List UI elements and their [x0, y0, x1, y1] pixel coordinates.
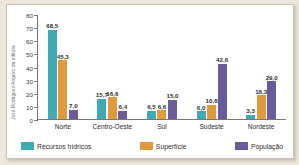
bar: 6,6: [157, 110, 166, 119]
bar-value-label: 45,3: [57, 53, 69, 60]
y-axis-tick-label: 30: [11, 77, 33, 84]
bar: 15,0: [168, 100, 177, 120]
bar-value-label: 42,6: [216, 56, 228, 63]
bar-group: 6,010,842,6: [187, 15, 237, 119]
bar-value-label: 6,0: [197, 104, 206, 111]
bar-groups: 68,545,37,015,716,66,46,56,615,06,010,84…: [38, 15, 286, 119]
bar-value-label: 16,6: [106, 90, 118, 97]
bar-fill: [197, 111, 206, 119]
chart-panel: José Rodrigues/Arquivo da editora 807060…: [6, 4, 294, 159]
y-axis-tick-label: 40: [11, 64, 33, 71]
y-axis-tick-mark: [34, 120, 38, 121]
y-axis-tick-label: 0: [11, 117, 33, 124]
bar-group: 3,318,329,0: [236, 15, 286, 119]
bar: 18,3: [257, 95, 266, 119]
bar: 68,5: [48, 30, 57, 119]
bar: 45,3: [58, 60, 67, 119]
y-axis-tick-label: 70: [11, 25, 33, 32]
legend-swatch-populacao: [235, 142, 248, 150]
legend-label-recursos-hidricos: Recursos hídricos: [37, 143, 91, 150]
plot-area: 80706050403020100 68,545,37,015,716,66,4…: [37, 15, 286, 120]
legend-swatch-recursos-hidricos: [21, 142, 34, 150]
bar-fill: [267, 81, 276, 119]
bar: 6,4: [118, 111, 127, 119]
bar-group: 6,56,615,0: [137, 15, 187, 119]
bar: 7,0: [69, 110, 78, 119]
x-axis-category-label: Sudeste: [187, 123, 237, 134]
bar-fill: [147, 111, 156, 119]
legend-swatch-superficie: [140, 142, 153, 150]
x-axis-line: [37, 119, 286, 120]
bar-fill: [246, 115, 255, 119]
bar-fill: [97, 99, 106, 119]
bar-value-label: 18,3: [255, 88, 267, 95]
bar-fill: [58, 60, 67, 119]
bar-fill: [207, 105, 216, 119]
legend-label-superficie: Superfície: [156, 143, 187, 150]
x-axis-category-label: Centro-Oeste: [88, 123, 138, 134]
bar: 16,6: [108, 97, 117, 119]
bar-fill: [48, 30, 57, 119]
bar-group: 68,545,37,0: [38, 15, 88, 119]
bar-value-label: 10,8: [206, 97, 218, 104]
x-axis-category-label: Nordeste: [236, 123, 286, 134]
bar-group: 15,716,66,4: [88, 15, 138, 119]
bar-fill: [108, 97, 117, 119]
y-axis-tick-label: 50: [11, 51, 33, 58]
bar: 6,0: [197, 111, 206, 119]
legend-item-recursos-hidricos: Recursos hídricos: [21, 142, 91, 150]
bar-value-label: 29,0: [266, 74, 278, 81]
bar-fill: [69, 110, 78, 119]
y-axis-tick-label: 60: [11, 38, 33, 45]
chart-legend: Recursos hídricos Superfície População: [21, 138, 283, 154]
bar-value-label: 15,0: [166, 92, 178, 99]
bar-value-label: 7,0: [69, 102, 78, 109]
bar-fill: [168, 100, 177, 120]
x-axis-category-label: Sul: [137, 123, 187, 134]
legend-item-superficie: Superfície: [140, 142, 187, 150]
bar-fill: [118, 111, 127, 119]
x-axis-category-label: Norte: [38, 123, 88, 134]
chart-screenshot: José Rodrigues/Arquivo da editora 807060…: [0, 0, 299, 165]
legend-label-populacao: População: [251, 143, 283, 150]
bar-value-label: 3,3: [246, 107, 255, 114]
bar-value-label: 6,6: [158, 103, 167, 110]
bar: 42,6: [218, 64, 227, 119]
bar-value-label: 6,5: [147, 103, 156, 110]
bar: 29,0: [267, 81, 276, 119]
legend-item-populacao: População: [235, 142, 283, 150]
y-axis-tick-label: 80: [11, 12, 33, 19]
bar-fill: [257, 95, 266, 119]
bar-value-label: 6,4: [119, 103, 128, 110]
x-axis-category-labels: NorteCentro-OesteSulSudesteNordeste: [38, 123, 286, 134]
bar: 15,7: [97, 99, 106, 119]
bar: 3,3: [246, 115, 255, 119]
y-axis-tick-label: 10: [11, 103, 33, 110]
bar-fill: [218, 64, 227, 119]
bar: 6,5: [147, 111, 156, 119]
bar-fill: [157, 110, 166, 119]
bar: 10,8: [207, 105, 216, 119]
y-axis-tick-label: 20: [11, 90, 33, 97]
bar-value-label: 68,5: [46, 22, 58, 29]
